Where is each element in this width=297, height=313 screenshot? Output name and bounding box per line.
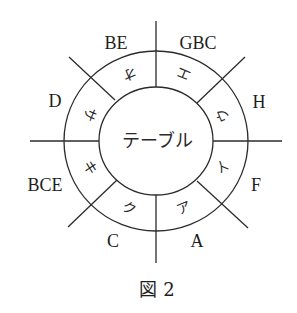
figure-caption: 図 2 bbox=[139, 279, 174, 300]
seat-o: オ bbox=[119, 64, 138, 84]
seat-ku: ク bbox=[119, 198, 138, 218]
label-a: A bbox=[191, 231, 204, 251]
seat-a: ア bbox=[174, 198, 193, 218]
seat-u: ウ bbox=[213, 105, 233, 124]
label-be: BE bbox=[104, 33, 127, 53]
label-c: C bbox=[107, 231, 119, 251]
seat-e: エ bbox=[174, 64, 193, 84]
divider-lower-left bbox=[68, 180, 117, 227]
seat-i: イ bbox=[213, 158, 233, 177]
label-h: H bbox=[253, 92, 266, 112]
seat-ki: キ bbox=[80, 158, 100, 177]
label-gbc: GBC bbox=[179, 33, 216, 53]
seating-diagram: テーブル ア イ ウ エ オ サ キ ク BE GBC H F A C BCE … bbox=[0, 0, 297, 313]
label-bce: BCE bbox=[27, 175, 62, 195]
divider-lower-right bbox=[197, 181, 248, 228]
seat-sa: サ bbox=[80, 104, 100, 123]
label-f: F bbox=[251, 175, 261, 195]
table-label: テーブル bbox=[122, 130, 193, 151]
label-d: D bbox=[49, 91, 62, 111]
